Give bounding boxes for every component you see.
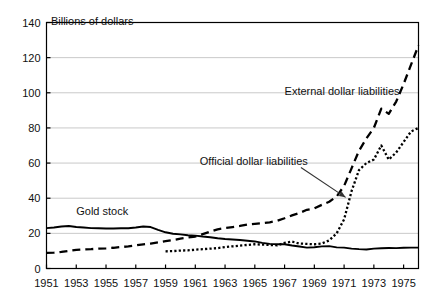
x-tick-label: 1963 <box>213 277 237 289</box>
x-tick-label: 1953 <box>64 277 88 289</box>
y-tick-labels: 020406080100120140 <box>22 17 40 275</box>
x-tick-label: 1965 <box>243 277 267 289</box>
x-tick-label: 1955 <box>94 277 118 289</box>
axis-ticks <box>47 23 404 269</box>
y-tick-label: 0 <box>34 263 40 275</box>
y-tick-label: 40 <box>28 192 40 204</box>
series-line <box>47 45 419 253</box>
x-tick-label: 1973 <box>362 277 386 289</box>
x-tick-label: 1957 <box>124 277 148 289</box>
y-tick-label: 100 <box>22 87 40 99</box>
x-tick-labels: 1951195319551957195919611963196519671969… <box>34 277 416 289</box>
line-chart: 0204060801001201401951195319551957195919… <box>0 0 435 303</box>
y-tick-label: 60 <box>28 157 40 169</box>
y-axis-title: Billions of dollars <box>51 15 134 27</box>
x-tick-label: 1951 <box>34 277 58 289</box>
series-group <box>47 45 419 253</box>
x-tick-label: 1975 <box>391 277 415 289</box>
annotation-arrow-line <box>301 167 346 197</box>
x-tick-label: 1971 <box>332 277 356 289</box>
series-label: External dollar liabilities <box>285 85 400 97</box>
x-tick-label: 1969 <box>302 277 326 289</box>
y-tick-label: 80 <box>28 122 40 134</box>
y-tick-label: 140 <box>22 17 40 29</box>
chart-figure: 0204060801001201401951195319551957195919… <box>0 0 435 303</box>
x-tick-label: 1959 <box>153 277 177 289</box>
y-tick-label: 20 <box>28 227 40 239</box>
annotations: Billions of dollarsGold stockOfficial do… <box>51 15 400 217</box>
y-tick-label: 120 <box>22 52 40 64</box>
series-label: Gold stock <box>76 205 128 217</box>
series-label: Official dollar liabilities <box>200 155 309 167</box>
gridlines <box>47 23 419 234</box>
x-tick-label: 1961 <box>183 277 207 289</box>
x-tick-label: 1967 <box>272 277 296 289</box>
